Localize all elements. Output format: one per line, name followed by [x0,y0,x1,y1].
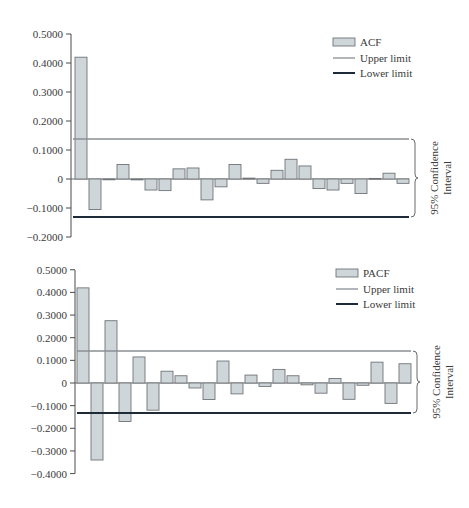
pacf-bar-lag-2 [91,383,103,460]
pacf-chart: 0.50000.40000.30000.20000.10000−0.1000−0… [0,250,469,508]
ci-label-line1: 95% Confidence [430,345,442,419]
acf-chart-svg: 0.50000.40000.30000.20000.10000−0.1000−0… [0,0,469,250]
y-tick-label: −0.4000 [31,468,68,480]
ci-label-line1: 95% Confidence [428,141,440,215]
y-tick-label: 0.4000 [37,286,68,298]
acf-bar-lag-21 [355,179,367,194]
y-tick-label: 0.4000 [33,57,64,69]
y-tick-label: 0.5000 [33,28,64,40]
pacf-bar-lag-10 [203,383,215,400]
legend-swatch-bar [336,269,358,277]
pacf-bar-lag-22 [371,362,383,383]
confidence-brace-icon [413,351,420,413]
acf-bar-lag-3 [103,179,115,180]
acf-bar-lag-4 [117,165,129,180]
confidence-interval-label: 95% ConfidenceInterval [428,141,453,215]
y-tick-label: −0.1000 [27,202,64,214]
pacf-bar-lag-23 [385,383,397,403]
pacf-bar-lag-17 [301,383,313,385]
y-tick-label: 0 [62,377,68,389]
y-tick-label: −0.2000 [27,231,64,243]
pacf-bar-lag-16 [287,376,299,383]
pacf-bar-lag-11 [217,361,229,383]
pacf-bar-lag-6 [147,383,159,410]
acf-bar-lag-22 [369,178,381,179]
y-tick-label: −0.3000 [31,445,68,457]
confidence-brace-icon [411,139,418,217]
y-tick-label: 0.3000 [33,86,64,98]
y-tick-label: −0.2000 [31,422,68,434]
pacf-bar-lag-8 [175,376,187,383]
pacf-bar-lag-5 [133,357,145,383]
y-tick-label: 0 [58,173,64,185]
y-tick-label: 0.5000 [37,264,68,276]
pacf-bar-lag-19 [329,378,341,383]
acf-bar-lag-13 [243,178,255,179]
legend-swatch-bar [333,38,355,46]
pacf-bar-lag-15 [273,369,285,383]
acf-bar-lag-20 [341,179,353,183]
ci-label-line2: Interval [441,161,453,195]
pacf-bar-lag-13 [245,375,257,383]
acf-bar-lag-7 [159,179,171,191]
acf-bar-lag-6 [145,179,157,190]
acf-bar-lag-11 [215,179,227,187]
acf-bar-lag-2 [89,179,101,209]
pacf-bar-lag-9 [189,383,201,388]
y-tick-label: 0.3000 [37,309,68,321]
y-tick-label: 0.1000 [33,144,64,156]
pacf-bar-lag-21 [357,383,369,385]
acf-bar-lag-8 [173,169,185,179]
pacf-bar-lag-24 [399,364,411,383]
acf-bar-lag-15 [271,170,283,179]
acf-bar-lag-16 [285,159,297,179]
legend-label-upper: Upper limit [360,52,411,64]
acf-chart: 0.50000.40000.30000.20000.10000−0.1000−0… [0,0,469,250]
legend-label-series: ACF [360,36,381,48]
pacf-bar-lag-20 [343,383,355,399]
acf-bar-lag-10 [201,179,213,200]
acf-bar-lag-24 [397,179,409,183]
pacf-bar-lag-1 [77,288,89,383]
legend-label-series: PACF [363,267,390,279]
acf-bar-lag-5 [131,179,143,180]
confidence-interval-label: 95% ConfidenceInterval [430,345,455,419]
legend-label-lower: Lower limit [360,67,412,79]
y-tick-label: 0.1000 [37,354,68,366]
acf-bar-lag-19 [327,179,339,190]
pacf-bar-lag-18 [315,383,327,393]
pacf-bar-lag-3 [105,321,117,383]
ci-label-line2: Interval [443,365,455,399]
acf-bar-lag-12 [229,165,241,180]
acf-bar-lag-14 [257,179,269,183]
y-tick-label: −0.1000 [31,400,68,412]
pacf-chart-svg: 0.50000.40000.30000.20000.10000−0.1000−0… [0,250,469,508]
legend: ACFUpper limitLower limit [333,36,412,79]
legend: PACFUpper limitLower limit [336,267,415,310]
acf-bar-lag-1 [75,57,87,179]
acf-bar-lag-23 [383,173,395,179]
pacf-bar-lag-7 [161,371,173,383]
pacf-bar-lag-12 [231,383,243,394]
y-tick-label: 0.2000 [37,332,68,344]
pacf-bar-lag-4 [119,383,131,422]
acf-bar-lag-9 [187,168,199,179]
acf-bar-lag-18 [313,179,325,189]
acf-bar-lag-17 [299,166,311,179]
legend-label-lower: Lower limit [363,298,415,310]
legend-label-upper: Upper limit [363,283,414,295]
pacf-bar-lag-14 [259,383,271,386]
y-tick-label: 0.2000 [33,115,64,127]
